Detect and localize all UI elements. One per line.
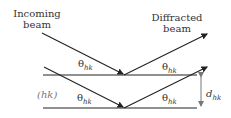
theta-sub: hk	[168, 98, 177, 106]
incoming-beam-label: Incoming beam	[12, 8, 62, 30]
incoming-label-line1: Incoming	[12, 8, 62, 19]
theta-sub: hk	[84, 64, 93, 72]
spacing-sub: hk	[212, 94, 221, 102]
incoming-label-line2: beam	[12, 19, 62, 30]
theta-incoming-top: θhk	[78, 58, 93, 72]
diffracted-label-line1: Diffracted	[147, 12, 207, 23]
theta-incoming-bottom: θhk	[77, 92, 92, 106]
theta-sub: hk	[168, 67, 177, 75]
theta-sub: hk	[83, 98, 92, 106]
theta-diffracted-bottom: θhk	[162, 92, 177, 106]
spacing-label: dhk	[206, 88, 221, 102]
diffracted-label-line2: beam	[147, 23, 207, 34]
diffracted-beam-label: Diffracted beam	[147, 12, 207, 34]
plane-label: (hk)	[37, 89, 57, 100]
theta-diffracted-top: θhk	[162, 61, 177, 75]
